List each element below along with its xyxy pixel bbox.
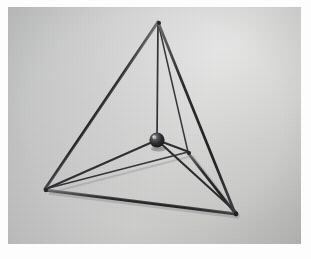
- cast-shadow-group: [49, 156, 239, 217]
- spoke-center-apex: [157, 23, 158, 140]
- vertex-right-front: [234, 212, 239, 217]
- tetrahedron-model: [8, 7, 301, 244]
- back-edges: [45, 22, 188, 189]
- edge-apex-right: [158, 22, 235, 213]
- center-spokes: [46, 23, 236, 212]
- center-sphere: [149, 132, 166, 151]
- edge-left-right: [45, 190, 236, 214]
- photograph: [8, 7, 301, 244]
- edge-back-right: [188, 153, 235, 213]
- vertex-back: [187, 151, 191, 155]
- vertex-left-front: [44, 188, 48, 192]
- vertex-apex: [157, 21, 161, 25]
- photo-frame: [0, 0, 311, 259]
- rod-highlights: [46, 23, 236, 213]
